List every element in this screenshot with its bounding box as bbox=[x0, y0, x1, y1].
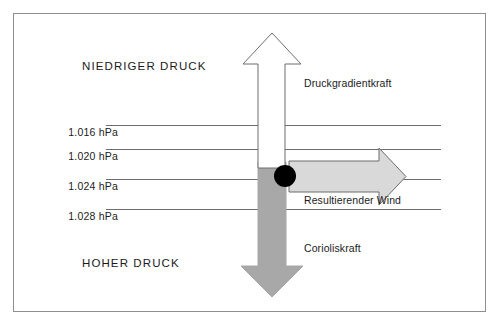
high-pressure-label: HOHER DRUCK bbox=[82, 257, 180, 269]
air-parcel-marker bbox=[274, 165, 296, 187]
resultant-wind-label: Resultierender Wind bbox=[304, 194, 401, 206]
low-pressure-label: NIEDRIGER DRUCK bbox=[82, 60, 206, 72]
pressure-gradient-force-arrow bbox=[241, 32, 303, 169]
coriolis-force-label: Corioliskraft bbox=[304, 242, 361, 254]
isobar-label-1024: 1.024 hPa bbox=[42, 180, 118, 192]
diagram-canvas: NIEDRIGER DRUCK HOHER DRUCK 1.016 hPa 1.… bbox=[0, 0, 501, 327]
isobar-label-1016: 1.016 hPa bbox=[42, 126, 118, 138]
pressure-gradient-force-label: Druckgradientkraft bbox=[304, 77, 392, 89]
isobar-label-1028: 1.028 hPa bbox=[42, 210, 118, 222]
isobar-label-1020: 1.020 hPa bbox=[42, 150, 118, 162]
diagram-frame: NIEDRIGER DRUCK HOHER DRUCK 1.016 hPa 1.… bbox=[13, 13, 486, 312]
